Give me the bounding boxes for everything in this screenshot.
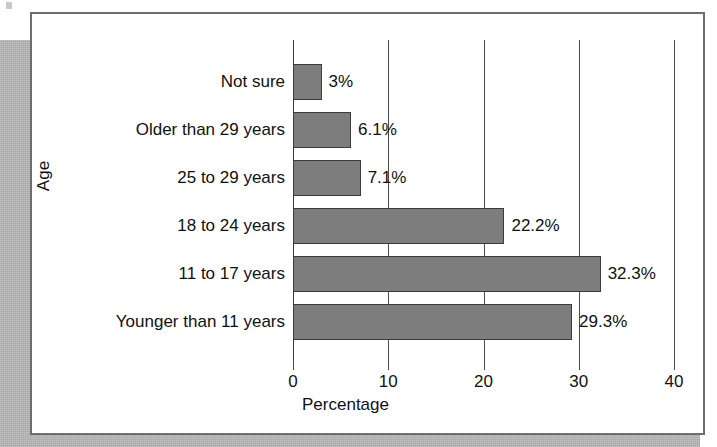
- chart-figure: 010203040 Younger than 11 years29.3%11 t…: [0, 0, 717, 447]
- y-axis-title: Age: [70, 164, 94, 264]
- bar: [293, 208, 504, 244]
- x-tick-label-40: 40: [654, 372, 694, 392]
- tick-mark-0: [293, 360, 294, 370]
- bar: [293, 304, 572, 340]
- chart-card: 010203040 Younger than 11 years29.3%11 t…: [30, 12, 705, 435]
- bar-value-label: 3%: [329, 72, 354, 92]
- bar-value-label: 32.3%: [608, 264, 656, 284]
- bar: [293, 64, 322, 100]
- gridline-40: [674, 40, 675, 360]
- category-label: 11 to 17 years: [45, 264, 285, 284]
- tick-mark-20: [484, 360, 485, 370]
- bar-value-label: 22.2%: [511, 216, 559, 236]
- plot-area: 010203040 Younger than 11 years29.3%11 t…: [32, 14, 707, 437]
- bar-value-label: 29.3%: [579, 312, 627, 332]
- x-axis-title-text: Percentage: [302, 395, 389, 415]
- bar: [293, 160, 361, 196]
- tick-mark-10: [388, 360, 389, 370]
- bar-value-label: 7.1%: [368, 168, 407, 188]
- tick-mark-40: [674, 360, 675, 370]
- x-tick-label-30: 30: [559, 372, 599, 392]
- bar: [293, 112, 351, 148]
- x-tick-label-20: 20: [464, 372, 504, 392]
- bar-value-label: 6.1%: [358, 120, 397, 140]
- category-label: Not sure: [45, 72, 285, 92]
- scan-artifact: [6, 2, 12, 9]
- bar: [293, 256, 601, 292]
- category-label: Younger than 11 years: [45, 312, 285, 332]
- tick-mark-30: [579, 360, 580, 370]
- x-tick-label-0: 0: [273, 372, 313, 392]
- x-axis-title: Percentage: [32, 395, 707, 415]
- y-axis-title-text: Age: [0, 126, 94, 226]
- x-tick-label-10: 10: [368, 372, 408, 392]
